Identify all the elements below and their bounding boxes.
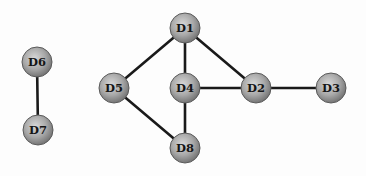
node-d1: D1 bbox=[170, 13, 200, 43]
node-d4: D4 bbox=[170, 73, 200, 103]
node-d2: D2 bbox=[241, 73, 271, 103]
node-d3: D3 bbox=[316, 73, 346, 103]
node-label: D1 bbox=[176, 21, 194, 35]
node-label: D7 bbox=[29, 123, 47, 137]
graph-canvas: D1D2D3D4D5D6D7D8 bbox=[0, 0, 366, 176]
node-label: D3 bbox=[322, 81, 340, 95]
node-label: D4 bbox=[176, 81, 194, 95]
node-d5: D5 bbox=[99, 73, 129, 103]
node-label: D6 bbox=[28, 55, 46, 69]
graph-diagram: D1D2D3D4D5D6D7D8 bbox=[0, 0, 366, 176]
node-d7: D7 bbox=[23, 115, 53, 145]
node-label: D2 bbox=[247, 81, 265, 95]
node-d6: D6 bbox=[22, 47, 52, 77]
node-label: D5 bbox=[105, 81, 123, 95]
node-label: D8 bbox=[176, 141, 194, 155]
node-d8: D8 bbox=[170, 133, 200, 163]
